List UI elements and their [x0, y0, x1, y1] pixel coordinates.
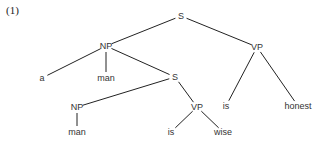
- tree-node-s_root: S: [178, 12, 184, 21]
- tree-edge-np_top-a: [47, 49, 100, 76]
- tree-node-np_low: NP: [71, 103, 84, 112]
- tree-node-vp_top: VP: [251, 43, 263, 52]
- tree-edge-s_mid-vp_low: [179, 82, 194, 102]
- tree-edge-s_root-np_top: [112, 18, 176, 44]
- tree-edge-vp_low-wise: [201, 111, 218, 128]
- tree-node-wise: wise: [214, 128, 232, 137]
- tree-node-honest: honest: [284, 102, 311, 111]
- tree-edge-vp_top-honest: [260, 52, 294, 101]
- tree-edge-np_top-s_mid: [111, 48, 169, 74]
- tree-node-is_top: is: [223, 102, 230, 111]
- tree-node-s_mid: S: [172, 73, 178, 82]
- tree-node-man_low: man: [68, 128, 86, 137]
- tree-node-man_top: man: [97, 74, 115, 83]
- tree-node-np_top: NP: [100, 42, 113, 51]
- tree-node-is_low: is: [168, 128, 175, 137]
- tree-node-a: a: [39, 74, 44, 83]
- tree-edges: [0, 0, 323, 142]
- tree-node-vp_low: VP: [191, 103, 203, 112]
- tree-edge-vp_top-is_top: [229, 52, 254, 100]
- tree-edge-s_root-vp_top: [187, 18, 252, 44]
- syntax-tree-diagram: (1) SNPVPamanSishonestNPmanVPiswise: [0, 0, 323, 142]
- tree-edge-vp_low-is_low: [175, 111, 192, 128]
- tree-edge-s_mid-np_low: [83, 79, 170, 105]
